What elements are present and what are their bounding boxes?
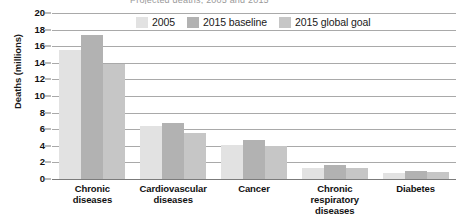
- bar-group: Diabetes: [375, 13, 456, 179]
- x-axis-category-label-line: diseases: [128, 194, 218, 205]
- x-axis-category-label: Chronicrespiratorydiseases: [290, 183, 380, 216]
- clipped-chart-title: Projected deaths, 2005 and 2015: [130, 0, 380, 4]
- bar: [243, 140, 265, 179]
- bar: [162, 123, 184, 179]
- x-axis-category-label: Diabetes: [371, 183, 461, 194]
- y-tick-label: 2: [5, 158, 45, 168]
- chart-legend: 20052015 baseline2015 global goal: [136, 16, 371, 28]
- plot-area: 02468101214161820ChronicdiseasesCardiova…: [52, 13, 456, 179]
- x-axis-category-label: Chronicdiseases: [47, 183, 137, 205]
- y-tick-mark: [45, 46, 51, 47]
- x-axis-category-label-line: respiratory: [290, 194, 380, 205]
- x-axis-category-label-line: Diabetes: [371, 183, 461, 194]
- bar: [324, 165, 346, 179]
- bar-chart: Projected deaths, 2005 and 2015 Deaths (…: [0, 0, 465, 221]
- y-tick-label: 6: [5, 124, 45, 134]
- bar: [346, 168, 368, 179]
- bar-group: Cancer: [214, 13, 295, 179]
- y-tick-mark: [45, 13, 51, 14]
- y-tick-label: 18: [5, 25, 45, 35]
- x-axis-category-label-line: Cancer: [209, 183, 299, 194]
- legend-label: 2015 baseline: [203, 16, 267, 28]
- y-tick-mark: [45, 179, 51, 180]
- x-axis-category-label-line: diseases: [290, 205, 380, 216]
- x-axis-category-label: Cardiovasculardiseases: [128, 183, 218, 205]
- x-axis-category-label-line: Chronic: [290, 183, 380, 194]
- y-tick-mark: [45, 162, 51, 163]
- bar: [427, 172, 449, 179]
- bar: [265, 146, 287, 179]
- y-tick-mark: [45, 96, 51, 97]
- y-tick-label: 16: [5, 41, 45, 51]
- bar-group-bars: [133, 13, 214, 179]
- x-axis-category-label-line: Cardiovascular: [128, 183, 218, 194]
- y-tick-mark: [45, 112, 51, 113]
- bar-group: Chronicdiseases: [52, 13, 133, 179]
- bar: [221, 145, 243, 179]
- bar: [383, 173, 405, 179]
- y-tick-label: 8: [5, 108, 45, 118]
- bar-group: Chronicrespiratorydiseases: [294, 13, 375, 179]
- bar-group-bars: [294, 13, 375, 179]
- legend-item: 2015 global goal: [279, 16, 370, 28]
- y-tick-mark: [45, 145, 51, 146]
- bar-group: Cardiovasculardiseases: [133, 13, 214, 179]
- bar-group-bars: [52, 13, 133, 179]
- bar: [59, 50, 81, 179]
- gridline: [52, 179, 456, 180]
- x-axis-category-label: Cancer: [209, 183, 299, 194]
- y-tick-mark: [45, 62, 51, 63]
- y-tick-label: 0: [5, 174, 45, 184]
- legend-label: 2005: [152, 16, 175, 28]
- x-axis-category-label-line: diseases: [47, 194, 137, 205]
- legend-color-swatch: [187, 17, 199, 28]
- bar: [405, 171, 427, 179]
- legend-color-swatch: [136, 17, 148, 28]
- y-tick-label: 4: [5, 141, 45, 151]
- bar-group-bars: [214, 13, 295, 179]
- legend-item: 2015 baseline: [187, 16, 267, 28]
- bar: [140, 126, 162, 179]
- bar: [103, 64, 125, 179]
- bar-group-bars: [375, 13, 456, 179]
- bar: [184, 133, 206, 179]
- y-tick-label: 20: [5, 8, 45, 18]
- y-tick-mark: [45, 129, 51, 130]
- bar: [81, 35, 103, 179]
- y-tick-mark: [45, 29, 51, 30]
- legend-color-swatch: [279, 17, 291, 28]
- y-tick-label: 10: [5, 91, 45, 101]
- bar: [302, 168, 324, 179]
- y-tick-label: 14: [5, 58, 45, 68]
- y-tick-label: 12: [5, 75, 45, 85]
- y-tick-mark: [45, 79, 51, 80]
- x-axis-category-label-line: Chronic: [47, 183, 137, 194]
- legend-label: 2015 global goal: [295, 16, 370, 28]
- legend-item: 2005: [136, 16, 175, 28]
